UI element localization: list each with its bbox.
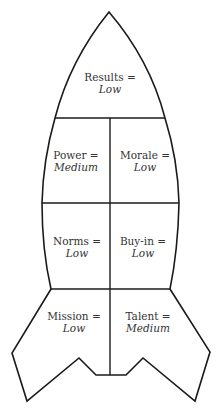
section-power: Power = Medium — [53, 149, 98, 173]
section-talent: Talent = Medium — [125, 310, 170, 334]
section-mission: Mission = Low — [47, 310, 100, 334]
section-mission-name: Mission = — [47, 310, 100, 322]
section-morale-name: Morale = — [120, 149, 170, 161]
section-mission-value: Low — [47, 322, 100, 334]
section-norms-name: Norms = — [53, 235, 101, 247]
section-morale: Morale = Low — [120, 149, 170, 173]
section-results-value: Low — [84, 83, 135, 95]
section-power-value: Medium — [53, 161, 98, 173]
section-buy-in-name: Buy-in = — [120, 235, 166, 247]
section-power-name: Power = — [53, 149, 98, 161]
section-norms-value: Low — [53, 247, 101, 259]
section-norms: Norms = Low — [53, 235, 101, 259]
rocket-diagram — [0, 0, 224, 416]
section-morale-value: Low — [120, 161, 170, 173]
section-results: Results = Low — [84, 71, 135, 95]
section-buy-in: Buy-in = Low — [120, 235, 166, 259]
section-results-name: Results = — [84, 71, 135, 83]
section-talent-name: Talent = — [125, 310, 170, 322]
section-talent-value: Medium — [125, 322, 170, 334]
section-buy-in-value: Low — [120, 247, 166, 259]
